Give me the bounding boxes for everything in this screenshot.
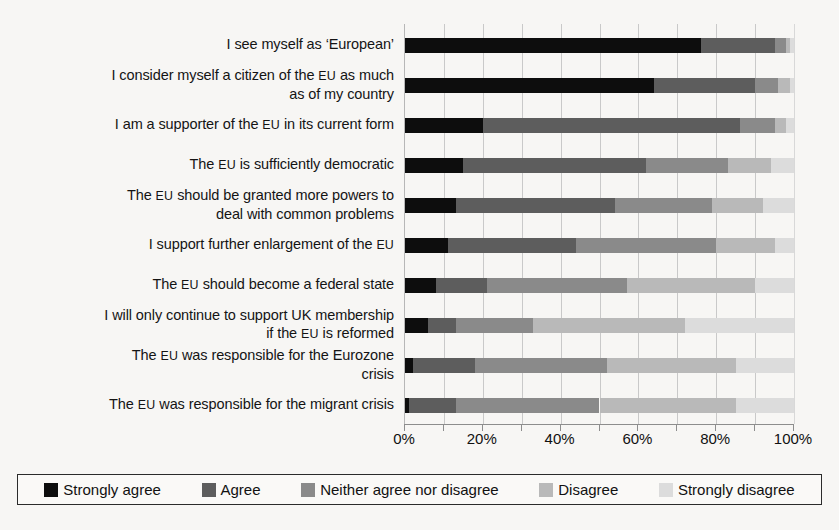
category-label: I consider myself a citizen of the EU as… (8, 67, 394, 103)
bar-segment (405, 38, 701, 53)
bar-segment (701, 38, 775, 53)
bar-segment (778, 78, 790, 93)
bar-segment (405, 198, 456, 213)
category-labels: I see myself as ‘European’I consider mys… (8, 24, 394, 424)
x-tick (754, 425, 755, 431)
legend-item[interactable]: Strongly agree (44, 481, 161, 498)
legend-label: Neither agree nor disagree (320, 481, 498, 498)
bar-segment (487, 278, 627, 293)
bar-row (405, 238, 794, 253)
bar-segment (405, 158, 463, 173)
category-label: I will only continue to support UK membe… (8, 307, 394, 343)
bar-segment (786, 118, 794, 133)
bar-segment (607, 358, 735, 373)
plot-area (404, 24, 795, 424)
bar-segment (456, 318, 534, 333)
bar-segment (790, 78, 794, 93)
legend-label: Agree (221, 481, 261, 498)
bar-segment (436, 278, 487, 293)
bar-segment (456, 398, 600, 413)
x-tick-label: 60% (622, 430, 652, 447)
legend-item[interactable]: Neither agree nor disagree (301, 481, 498, 498)
legend-label: Strongly agree (63, 481, 161, 498)
legend-item[interactable]: Agree (202, 481, 261, 498)
bar-segment (728, 158, 771, 173)
bar-segment (405, 318, 428, 333)
bar-row (405, 278, 794, 293)
x-tick-label: 80% (700, 430, 730, 447)
bar-segment (483, 118, 740, 133)
legend-swatch-icon (539, 483, 553, 497)
bar-segment (409, 398, 456, 413)
category-label: The EU was responsible for the migrant c… (8, 396, 394, 415)
bar-segment (405, 238, 448, 253)
bar-segment (405, 278, 436, 293)
bar-segment (646, 158, 728, 173)
bar-segment (755, 78, 778, 93)
x-axis (404, 424, 794, 431)
bar-row (405, 198, 794, 213)
category-label: The EU should be granted more powers tod… (8, 187, 394, 223)
bar-segment (405, 118, 483, 133)
bar-segment (475, 358, 607, 373)
bar-segment (790, 38, 794, 53)
category-label: The EU should become a federal state (8, 276, 394, 295)
category-label: I see myself as ‘European’ (8, 36, 394, 54)
legend-swatch-icon (659, 483, 673, 497)
bar-segment (712, 198, 763, 213)
bar-row (405, 398, 794, 413)
x-tick-label: 40% (545, 430, 575, 447)
legend-swatch-icon (44, 483, 58, 497)
bar-segment (576, 238, 716, 253)
bar-segment (456, 198, 615, 213)
bar-segment (775, 38, 787, 53)
bar-segment (463, 158, 646, 173)
bar-row (405, 118, 794, 133)
bar-row (405, 158, 794, 173)
legend-item[interactable]: Strongly disagree (659, 481, 795, 498)
x-tick-label: 0% (393, 430, 415, 447)
bar-row (405, 78, 794, 93)
legend-swatch-icon (202, 483, 216, 497)
bar-segment (716, 238, 774, 253)
bar-segment (736, 358, 794, 373)
bar-segment (755, 278, 794, 293)
legend-label: Strongly disagree (678, 481, 795, 498)
bar-segment (685, 318, 794, 333)
bar-segment (615, 198, 712, 213)
legend-label: Disagree (558, 481, 618, 498)
bar-segment (533, 318, 685, 333)
category-label: I support further enlargement of the EU (8, 236, 394, 255)
bar-row (405, 38, 794, 53)
bar-segment (654, 78, 755, 93)
bar-segment (775, 118, 787, 133)
bar-segment (413, 358, 475, 373)
x-tick-label: 20% (467, 430, 497, 447)
bar-segment (771, 158, 794, 173)
x-tick (676, 425, 677, 431)
x-tick (599, 425, 600, 431)
bar-segment (763, 198, 794, 213)
x-tick (443, 425, 444, 431)
category-label: I am a supporter of the EU in its curren… (8, 116, 394, 135)
bar-segment (405, 78, 654, 93)
legend-item[interactable]: Disagree (539, 481, 618, 498)
bar-segment (405, 358, 413, 373)
legend-swatch-icon (301, 483, 315, 497)
category-label: The EU was responsible for the Eurozonec… (8, 347, 394, 383)
bar-row (405, 318, 794, 333)
bar-row (405, 358, 794, 373)
bar-segment (627, 278, 755, 293)
bar-segment (740, 118, 775, 133)
category-label: The EU is sufficiently democratic (8, 156, 394, 175)
x-tick-label: 100% (774, 430, 812, 447)
plot-wrapper: I see myself as ‘European’I consider mys… (0, 0, 839, 468)
bar-segment (428, 318, 455, 333)
chart-legend: Strongly agreeAgreeNeither agree nor dis… (17, 474, 822, 505)
stacked-bar-chart: I see myself as ‘European’I consider mys… (0, 0, 839, 530)
bar-segment (448, 238, 576, 253)
bar-segment (775, 238, 794, 253)
bar-segment (736, 398, 794, 413)
x-tick (521, 425, 522, 431)
bar-segment (600, 398, 736, 413)
